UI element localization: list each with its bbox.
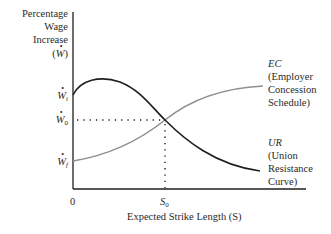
ec-label-abbr: EC xyxy=(268,58,281,70)
y-axis-title-line-4: (W) xyxy=(52,48,68,60)
y-tick-w-0: W0 xyxy=(56,114,68,129)
y-tick-w-f: Wf xyxy=(57,156,68,171)
y-axis-title-line-2: Wage xyxy=(44,21,68,33)
ur-label-abbr: UR xyxy=(268,137,282,149)
x-tick-s0: S0 xyxy=(160,196,169,211)
x-tick-origin: 0 xyxy=(70,196,75,208)
y-tick-w-i: Wi xyxy=(57,90,68,105)
x-axis-title: Expected Strike Length (S) xyxy=(127,211,242,223)
y-axis-title-line-3: Increase xyxy=(33,34,68,46)
y-axis-title-line-1: Percentage xyxy=(22,8,68,20)
ec-label-line-2: Concession xyxy=(268,84,316,96)
ec-label-line-1: (Employer xyxy=(268,71,313,83)
ec-label-line-3: Schedule) xyxy=(268,97,310,109)
ur-label-line-3: Curve) xyxy=(268,176,297,188)
ur-curve xyxy=(73,79,260,171)
ur-label-line-2: Resistance xyxy=(268,163,313,175)
ur-label-line-1: (Union xyxy=(268,150,298,162)
